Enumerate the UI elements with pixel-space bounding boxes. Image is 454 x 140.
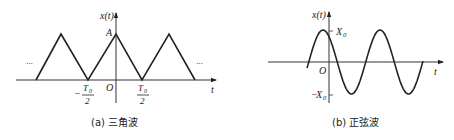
svg-text:0: 0 [323,94,327,101]
waveform-figure: x(t) t O A ··· ··· − T 0 2 T 0 2 (a) 三角波… [0,0,454,140]
origin-label: O [319,65,326,76]
peak-label: A [105,27,113,38]
x-axis-label: t [434,66,437,77]
svg-text:0: 0 [343,31,347,38]
neg-half-period-label: − T 0 2 [74,83,94,106]
caption-a: (a) 三角波 [91,116,138,128]
half-period-label: T 0 2 [137,83,149,106]
svg-text:X: X [315,89,323,100]
svg-text:X: X [335,26,343,37]
pos-amplitude-label: X 0 [335,26,347,38]
neg-amplitude-label: − X 0 [311,89,327,101]
origin-label: O [106,82,113,93]
svg-text:−: − [74,88,81,99]
y-axis-label: x(t) [99,10,115,22]
svg-text:2: 2 [140,96,145,106]
caption-b: (b) 正弦波 [332,116,379,128]
triangle-wave-panel: x(t) t O A ··· ··· − T 0 2 T 0 2 (a) 三角波 [16,10,216,128]
x-axis-label: t [211,84,214,95]
sine-wave-panel: x(t) t O X 0 − X 0 (b) 正弦波 [268,9,443,128]
y-axis-label: x(t) [311,9,327,21]
ellipsis-right: ··· [196,58,203,68]
svg-text:0: 0 [144,88,147,94]
svg-text:2: 2 [85,96,90,106]
ellipsis-left: ··· [26,58,33,68]
svg-text:0: 0 [89,88,92,94]
